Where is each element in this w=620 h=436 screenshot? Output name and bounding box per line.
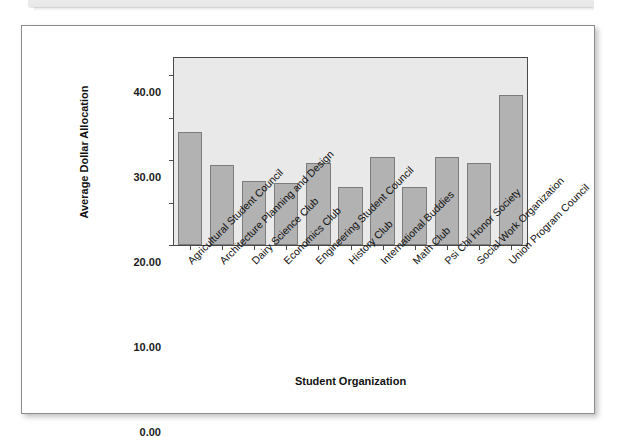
y-axis-tick-label: 30.00 — [133, 171, 161, 183]
y-axis-title: Average Dollar Allocation — [78, 85, 90, 218]
y-axis-tick: 0.00 — [169, 245, 174, 246]
y-axis-tick-label: 40.00 — [133, 86, 161, 98]
x-axis-tick-labels: Agricultural Student CouncilArchitecture… — [173, 248, 528, 368]
figure-card: Average Dollar Allocation 0.0010.0020.00… — [21, 25, 595, 414]
x-axis-title: Student Organization — [173, 375, 528, 387]
page-top-band-shadow — [34, 7, 594, 11]
bar — [178, 132, 202, 245]
y-axis-tick-label: 20.00 — [133, 256, 161, 268]
y-axis-tick-label: 0.00 — [140, 426, 161, 436]
y-axis-tick-label: 10.00 — [133, 341, 161, 353]
